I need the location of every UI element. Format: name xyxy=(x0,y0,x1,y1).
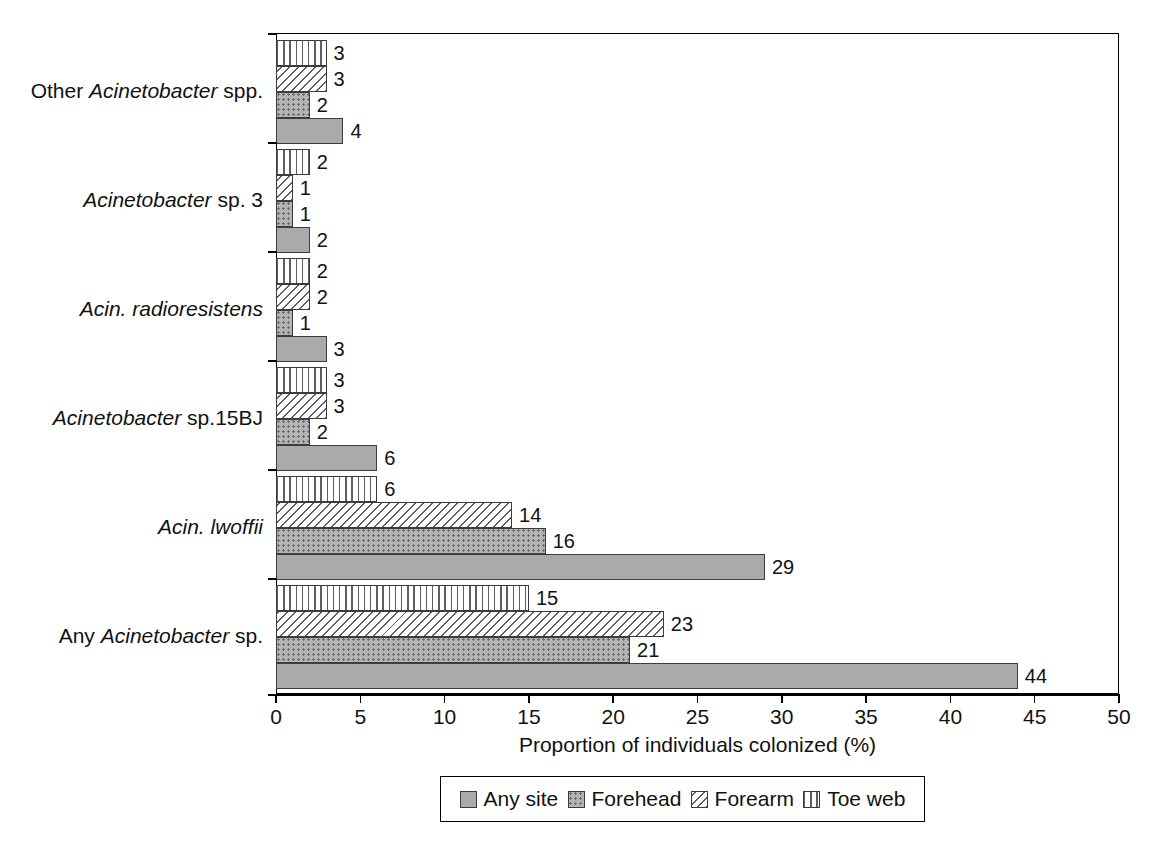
x-axis-tick xyxy=(950,694,952,703)
bar-value-label: 44 xyxy=(1025,663,1047,689)
bar-forehead xyxy=(276,92,310,118)
bar-any-site xyxy=(276,118,343,144)
x-axis-tick xyxy=(1118,694,1120,703)
y-axis-tick xyxy=(268,33,277,35)
bar-value-label: 6 xyxy=(384,476,395,502)
x-axis-tick xyxy=(612,694,614,703)
bar-any-site xyxy=(276,663,1018,689)
x-axis-tick xyxy=(865,694,867,703)
category-label-acinetobacter-sp-3: Acinetobacter sp. 3 xyxy=(0,187,263,212)
legend-swatch-toe-web-icon xyxy=(803,791,820,808)
category-label-suffix: sp.15BJ xyxy=(181,406,263,429)
x-axis-tick xyxy=(697,694,699,703)
category-label-italic: Acin. radioresistens xyxy=(80,297,263,320)
category-label-prefix: Other xyxy=(31,79,89,102)
bar-value-label: 3 xyxy=(334,336,345,362)
category-label-other-acinetobacter-spp: Other Acinetobacter spp. xyxy=(0,78,263,103)
bar-value-label: 4 xyxy=(350,118,361,144)
y-axis-tick xyxy=(268,142,277,144)
bar-value-label: 15 xyxy=(536,585,558,611)
x-axis-title: Proportion of individuals colonized (%) xyxy=(276,733,1119,757)
legend-swatch-any-site-icon xyxy=(460,791,477,808)
x-axis-tick-label: 50 xyxy=(1089,704,1149,729)
bar-forearm xyxy=(276,502,512,528)
bar-forehead xyxy=(276,637,630,663)
bar-value-label: 3 xyxy=(334,66,345,92)
bar-forearm xyxy=(276,284,310,310)
bar-forearm xyxy=(276,611,664,637)
bar-value-label: 1 xyxy=(300,310,311,336)
category-label-italic: Acinetobacter xyxy=(53,406,181,429)
x-axis-tick-label: 40 xyxy=(920,704,980,729)
bar-any-site xyxy=(276,554,765,580)
bar-value-label: 2 xyxy=(317,92,328,118)
bar-any-site xyxy=(276,227,310,253)
bar-value-label: 14 xyxy=(519,502,541,528)
bar-value-label: 16 xyxy=(553,528,575,554)
bar-toe-web xyxy=(276,476,377,502)
legend-item-any-site[interactable]: Any site xyxy=(460,787,559,811)
x-axis-tick-label: 45 xyxy=(1005,704,1065,729)
bar-forehead xyxy=(276,201,293,227)
legend: Any site Forehead Forearm Toe web xyxy=(440,776,925,822)
x-axis-tick-label: 35 xyxy=(836,704,896,729)
bar-any-site xyxy=(276,445,377,471)
bar-value-label: 3 xyxy=(334,393,345,419)
legend-label-any-site: Any site xyxy=(484,787,559,811)
legend-item-toe-web[interactable]: Toe web xyxy=(803,787,905,811)
bar-any-site xyxy=(276,336,327,362)
bar-toe-web xyxy=(276,40,327,66)
bar-value-label: 2 xyxy=(317,149,328,175)
bar-forehead xyxy=(276,528,546,554)
bar-forearm xyxy=(276,175,293,201)
x-axis-tick xyxy=(1034,694,1036,703)
x-axis-tick-label: 10 xyxy=(415,704,475,729)
bar-toe-web xyxy=(276,149,310,175)
x-axis-tick-label: 15 xyxy=(499,704,559,729)
legend-swatch-forearm-icon xyxy=(691,791,708,808)
y-axis-tick xyxy=(268,578,277,580)
bar-value-label: 3 xyxy=(334,367,345,393)
bar-value-label: 29 xyxy=(772,554,794,580)
legend-swatch-forehead-icon xyxy=(568,791,585,808)
bar-toe-web xyxy=(276,258,310,284)
bar-value-label: 6 xyxy=(384,445,395,471)
x-axis-tick xyxy=(781,694,783,703)
category-label-suffix: spp. xyxy=(217,79,263,102)
category-label-italic: Acin. lwoffii xyxy=(158,515,263,538)
y-axis-tick xyxy=(268,469,277,471)
category-label-acin-radioresistens: Acin. radioresistens xyxy=(0,296,263,321)
x-axis-tick-label: 25 xyxy=(668,704,728,729)
bar-value-label: 21 xyxy=(637,637,659,663)
bar-value-label: 1 xyxy=(300,201,311,227)
y-axis-tick xyxy=(268,251,277,253)
bar-forearm xyxy=(276,393,327,419)
bar-toe-web xyxy=(276,585,529,611)
bar-value-label: 2 xyxy=(317,227,328,253)
bar-value-label: 3 xyxy=(334,40,345,66)
category-label-suffix: sp. 3 xyxy=(212,188,263,211)
category-label-acin-lwoffii: Acin. lwoffii xyxy=(0,514,263,539)
y-axis-tick xyxy=(268,360,277,362)
bar-toe-web xyxy=(276,367,327,393)
category-label-italic: Acinetobacter xyxy=(83,188,211,211)
bar-chart: Other Acinetobacter spp. Acinetobacter s… xyxy=(0,0,1162,854)
bar-value-label: 2 xyxy=(317,419,328,445)
category-label-italic: Acinetobacter xyxy=(101,624,229,647)
x-axis-tick-label: 0 xyxy=(246,704,306,729)
category-label-suffix: sp. xyxy=(229,624,263,647)
bar-value-label: 1 xyxy=(300,175,311,201)
category-label-prefix: Any xyxy=(59,624,101,647)
legend-item-forearm[interactable]: Forearm xyxy=(691,787,794,811)
x-axis-tick xyxy=(444,694,446,703)
bar-forearm xyxy=(276,66,327,92)
legend-item-forehead[interactable]: Forehead xyxy=(568,787,682,811)
bar-forehead xyxy=(276,310,293,336)
x-axis-tick-label: 20 xyxy=(583,704,643,729)
category-label-italic: Acinetobacter xyxy=(89,79,217,102)
x-axis-tick xyxy=(360,694,362,703)
legend-label-forearm: Forearm xyxy=(715,787,794,811)
x-axis-tick xyxy=(528,694,530,703)
bar-forehead xyxy=(276,419,310,445)
legend-label-forehead: Forehead xyxy=(592,787,682,811)
